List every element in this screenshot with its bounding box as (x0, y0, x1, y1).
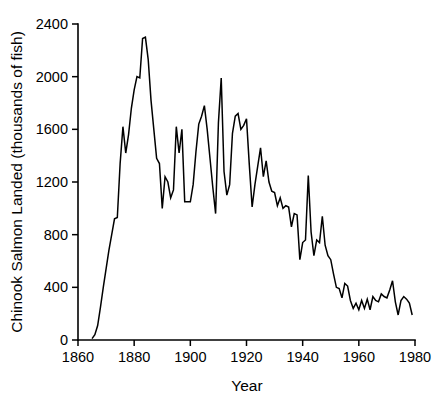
y-tick-label: 2000 (36, 69, 68, 85)
y-tick-label: 0 (60, 332, 68, 348)
x-tick-label: 1900 (174, 349, 206, 365)
chinook-salmon-line-chart: 04008001200160020002400 1860188019001920… (0, 0, 447, 402)
y-tick-label: 2400 (36, 16, 68, 32)
y-axis-title: Chinook Salmon Landed (thousands of fish… (8, 31, 25, 333)
x-tick-label: 1920 (230, 349, 262, 365)
x-axis-title: Year (231, 377, 262, 394)
x-tick-label: 1940 (287, 349, 319, 365)
y-tick-label: 1600 (36, 121, 68, 137)
chart-figure: 04008001200160020002400 1860188019001920… (0, 0, 447, 402)
x-tick-label: 1960 (343, 349, 375, 365)
y-tick-label: 800 (44, 227, 68, 243)
x-tick-label: 1980 (399, 349, 431, 365)
x-tick-label: 1880 (118, 349, 150, 365)
y-tick-label: 1200 (36, 174, 68, 190)
x-tick-label: 1860 (62, 349, 94, 365)
y-tick-label: 400 (44, 279, 68, 295)
